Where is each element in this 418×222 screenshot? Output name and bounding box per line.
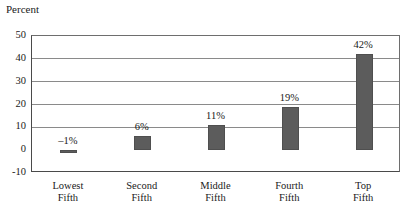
y-tick-label: -10: [0, 166, 26, 177]
x-category-label-line: Fifth: [254, 192, 324, 204]
x-category-label-line: Second: [107, 180, 177, 192]
x-category-label: FourthFifth: [254, 180, 324, 204]
x-category-label-line: Fifth: [107, 192, 177, 204]
y-tick-label: 0: [0, 143, 26, 154]
y-tick-label: 30: [0, 75, 26, 86]
x-category-label: LowestFifth: [33, 180, 103, 204]
x-category-label-line: Top: [328, 180, 398, 192]
gridline: [32, 58, 399, 59]
y-tick-label: 40: [0, 52, 26, 63]
y-tick-label: 20: [0, 98, 26, 109]
x-category-label: SecondFifth: [107, 180, 177, 204]
bar-value-label: 19%: [259, 92, 319, 103]
x-category-label-line: Middle: [181, 180, 251, 192]
bar: [208, 125, 225, 150]
chart-figure: Percent 50403020100-10 –1%6%11%19%42% Lo…: [0, 0, 418, 222]
bar-value-label: 42%: [333, 39, 393, 50]
bar-value-label: –1%: [38, 135, 98, 146]
gridline: [32, 81, 399, 82]
x-category-label-line: Fifth: [181, 192, 251, 204]
bar: [356, 54, 373, 150]
x-category-label: TopFifth: [328, 180, 398, 204]
bar-value-label: 6%: [112, 121, 172, 132]
y-tick-label: 50: [0, 29, 26, 40]
y-tick-label: 10: [0, 120, 26, 131]
x-category-label-line: Fourth: [254, 180, 324, 192]
bar: [134, 136, 151, 150]
bar: [60, 150, 77, 153]
x-category-label-line: Lowest: [33, 180, 103, 192]
x-category-label: MiddleFifth: [181, 180, 251, 204]
x-category-label-line: Fifth: [328, 192, 398, 204]
bar: [282, 107, 299, 150]
bar-value-label: 11%: [186, 110, 246, 121]
gridline: [32, 104, 399, 105]
plot-area: [31, 35, 400, 172]
x-category-label-line: Fifth: [33, 192, 103, 204]
y-axis-title: Percent: [6, 3, 39, 16]
